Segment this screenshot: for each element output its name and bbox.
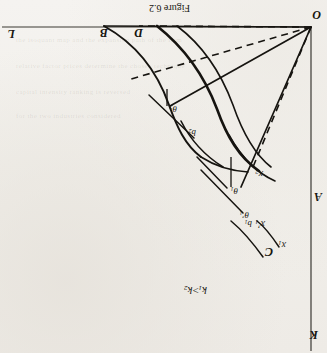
curve-label-x1-base: x (282, 240, 286, 251)
angle-label-theta1p-sub: 1 (240, 210, 243, 216)
curve-label-x2-base: x (259, 169, 263, 180)
curve-label-x1: x1 (278, 239, 286, 250)
rays-dashed-group (131, 26, 311, 167)
axis-label-L: L (8, 28, 15, 40)
point-label-C: C (265, 246, 273, 258)
curve-x2 (104, 26, 201, 157)
angle-label-theta2: θ2 (170, 103, 177, 113)
point-label-O: O (312, 9, 321, 21)
angle-label-theta1-sub: 1 (231, 186, 234, 192)
point-label-A: A (314, 191, 322, 203)
curve-x2-tail (201, 157, 248, 172)
condition-k2: k (188, 285, 193, 297)
curve-fragment-lower (229, 135, 275, 181)
curve-label-x1-prime: x′1 (255, 218, 265, 229)
point-label-B: B (100, 27, 108, 39)
curve-label-x2: x2 (255, 168, 263, 179)
tangency-label-b2: b2 (189, 127, 196, 137)
figure-caption: Figure 6.2 (149, 3, 190, 13)
curve-label-x2-sub: 2 (255, 169, 258, 176)
angle-label-theta2-sub: 2 (170, 104, 173, 110)
angle-label-theta1: θ1 (231, 185, 238, 195)
tangency-label-b2-sub: 2 (189, 128, 192, 134)
tangent-tick-theta1 (197, 157, 227, 188)
tangency-label-b1: b1 (245, 218, 252, 228)
ray-OD-dashed (139, 26, 311, 27)
axis-label-K: K (310, 329, 318, 341)
ray-theta2-dashed (131, 27, 311, 79)
condition-rel: > (192, 285, 198, 297)
condition-k1: k (202, 285, 207, 297)
curve-label-x1p-sub: 1 (255, 219, 258, 226)
tangency-label-b1-sub: 1 (245, 219, 248, 225)
tangent-line-b2 (149, 95, 194, 138)
curve-x1 (177, 26, 271, 167)
condition-label: k1>k2 (184, 284, 207, 296)
rotated-figure-container: O A B D C L K x2 x1 x′1 θ2 θ1 θ′1 b2 b1 … (0, 0, 327, 353)
curve-x1-prime (157, 26, 259, 171)
curve-label-x1-sub: 1 (278, 240, 281, 247)
figure-drawing (0, 0, 327, 353)
curve-label-x1p-base: x (261, 219, 265, 230)
curve-label-x1p-prime: ′ (258, 219, 260, 230)
isoquant-curves (104, 26, 279, 257)
point-label-D: D (134, 27, 143, 39)
